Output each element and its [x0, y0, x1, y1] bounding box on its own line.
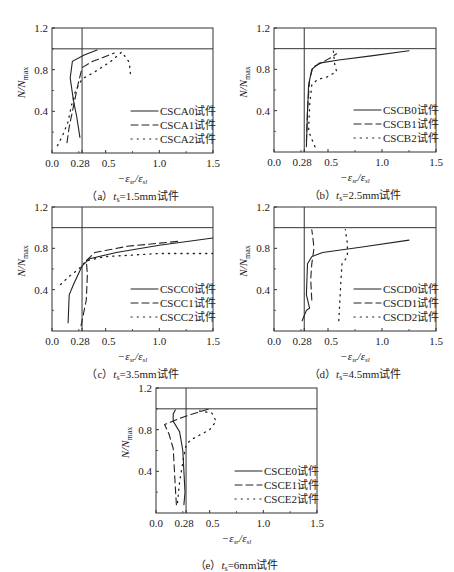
chart-panel-c: 0.00.280.51.01.50.40.81.2N/Nmax−εsr/εsl（…: [15, 201, 220, 382]
x-axis-label: −εsr/εsl: [118, 350, 147, 364]
x-tick-label: 1.5: [310, 517, 324, 529]
x-tick-label: 1.5: [429, 335, 443, 347]
series-line-cscc0: [68, 238, 213, 323]
panel-caption: （e）ts=6mm试件: [195, 559, 279, 572]
y-axis-label: N/Nmax: [237, 66, 252, 99]
chart-panel-e: 0.00.280.51.01.50.40.81.2N/Nmax−εsr/εsl（…: [119, 382, 324, 572]
x-tick-label: 0.5: [102, 157, 116, 169]
y-tick-label: 0.8: [256, 242, 270, 254]
y-axis-label: N/Nmax: [119, 427, 134, 460]
legend-label: CSCE0试件: [264, 465, 319, 477]
x-tick-label: 1.0: [152, 335, 166, 347]
legend-label: CSCE1试件: [264, 479, 319, 491]
x-tick-label: 1.0: [152, 157, 166, 169]
series-line-csca0: [70, 50, 97, 137]
series-line-csce1: [165, 409, 210, 505]
chart-panel-a: 0.00.280.51.01.50.40.81.2N/Nmax−εsr/εsl（…: [15, 22, 220, 204]
y-tick-label: 1.2: [34, 22, 48, 34]
y-tick-label: 0.4: [34, 105, 48, 117]
y-axis-label: N/Nmax: [15, 245, 30, 278]
panel-caption: （d）ts=4.5mm试件: [309, 368, 402, 382]
x-tick-label: 0.0: [149, 517, 163, 529]
y-axis-label: N/Nmax: [15, 67, 30, 100]
x-axis-label: −εsr/εsl: [340, 171, 369, 185]
x-tick-label: 0.28: [174, 517, 194, 529]
legend-label: CSCC2试件: [160, 311, 216, 323]
legend-label: CSCD0试件: [383, 283, 439, 295]
panel-caption: （c）ts=3.5mm试件: [86, 368, 178, 382]
x-tick-label: 0.28: [70, 335, 90, 347]
y-tick-label: 0.8: [34, 242, 48, 254]
x-axis-label: −εsr/εsl: [118, 172, 147, 186]
legend-label: CSCB2试件: [383, 132, 439, 144]
series-line-cscc2: [61, 254, 213, 285]
y-tick-label: 0.8: [138, 424, 152, 436]
x-axis-label: −εsr/εsl: [222, 532, 251, 546]
y-tick-label: 0.4: [138, 465, 152, 477]
panel-caption: （b）ts=2.5mm试件: [309, 189, 402, 203]
y-tick-label: 1.2: [256, 201, 270, 213]
x-tick-label: 0.0: [267, 156, 281, 168]
legend-label: CSCD2试件: [383, 311, 439, 323]
y-axis-label: N/Nmax: [237, 245, 252, 278]
x-tick-label: 0.28: [293, 335, 313, 347]
series-line-cscd2: [339, 230, 348, 321]
chart-panel-b: 0.00.280.51.01.50.40.81.2N/Nmax−εsr/εsl（…: [237, 22, 443, 203]
legend-label: CSCB0试件: [383, 104, 439, 116]
x-tick-label: 1.0: [375, 335, 389, 347]
y-tick-label: 0.4: [34, 284, 48, 296]
x-tick-label: 0.28: [70, 157, 90, 169]
y-tick-label: 0.4: [256, 284, 270, 296]
x-tick-label: 0.0: [45, 157, 59, 169]
x-tick-label: 1.5: [429, 156, 443, 168]
legend-label: CSCD1试件: [383, 297, 439, 309]
legend-label: CSCC1试件: [160, 297, 216, 309]
y-tick-label: 1.2: [138, 382, 152, 394]
legend-label: CSCA2试件: [160, 133, 216, 145]
series-line-cscd1: [311, 230, 314, 300]
x-tick-label: 0.28: [293, 156, 313, 168]
x-tick-label: 1.0: [375, 156, 389, 168]
x-tick-label: 0.5: [102, 335, 116, 347]
x-tick-label: 0.5: [206, 517, 220, 529]
y-tick-label: 0.8: [34, 64, 48, 76]
legend-label: CSCA1试件: [160, 119, 216, 131]
x-tick-label: 0.0: [267, 335, 281, 347]
legend-label: CSCA0试件: [160, 105, 216, 117]
series-line-cscb2: [309, 51, 337, 147]
x-tick-label: 1.5: [206, 157, 220, 169]
legend-label: CSCB1试件: [383, 118, 439, 130]
figure-panels: 0.00.280.51.01.50.40.81.2N/Nmax−εsr/εsl（…: [0, 0, 454, 572]
y-tick-label: 1.2: [256, 22, 270, 34]
x-axis-label: −εsr/εsl: [340, 350, 369, 364]
panel-caption: （a）ts=1.5mm试件: [86, 190, 178, 204]
y-tick-label: 0.8: [256, 63, 270, 75]
y-tick-label: 0.4: [256, 105, 270, 117]
x-tick-label: 0.0: [45, 335, 59, 347]
legend-label: CSCE2试件: [264, 493, 319, 505]
y-tick-label: 1.2: [34, 201, 48, 213]
x-tick-label: 0.5: [324, 335, 338, 347]
x-tick-label: 0.5: [324, 156, 338, 168]
x-tick-label: 1.0: [256, 517, 270, 529]
x-tick-label: 1.5: [206, 335, 220, 347]
chart-panel-d: 0.00.280.51.01.50.40.81.2N/Nmax−εsr/εsl（…: [237, 201, 443, 382]
legend-label: CSCC0试件: [160, 283, 216, 295]
